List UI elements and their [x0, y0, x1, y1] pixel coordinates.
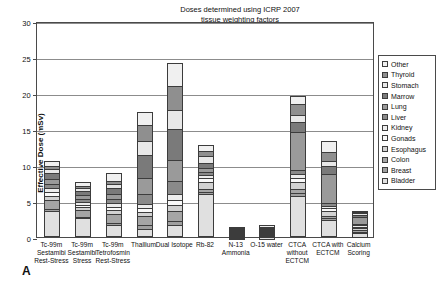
bar-segment	[137, 194, 153, 204]
bar-segment	[198, 194, 214, 236]
bar-segment	[75, 218, 91, 237]
bar-segment	[352, 233, 368, 237]
legend-swatch-icon	[382, 135, 388, 141]
bar-segment	[44, 211, 60, 237]
bar-segment	[229, 238, 245, 241]
legend-label: Lung	[391, 103, 407, 110]
legend-swatch-icon	[382, 82, 388, 88]
plot-area: Effective Dose (mSv) 051015202530	[36, 22, 374, 238]
legend-swatch-icon	[382, 146, 388, 152]
bar-segment	[106, 214, 122, 223]
legend-label: Stomach	[391, 82, 419, 89]
bar-segment	[290, 96, 306, 104]
legend-item[interactable]: Breast	[382, 165, 433, 176]
x-axis-labels: Tc-99mSestamibiRest-StressTc-99mSestamib…	[36, 241, 374, 285]
bar-segment	[167, 63, 183, 85]
figure-panel-a: Doses determined using ICRP 2007 tissue …	[0, 0, 440, 289]
bar-segment	[167, 181, 183, 195]
y-axis-tick-label: 10	[22, 163, 31, 172]
legend-item[interactable]: Colon	[382, 154, 433, 165]
legend-label: Bladder	[391, 177, 415, 184]
x-axis-label-line: Calcium	[336, 241, 381, 249]
legend-item[interactable]: Bladder	[382, 176, 433, 187]
bar-segment	[137, 125, 153, 140]
legend-item[interactable]: Other	[382, 59, 433, 70]
bar-segment	[44, 200, 60, 209]
legend-swatch-icon	[382, 93, 388, 99]
y-axis-tick-label: 15	[22, 127, 31, 136]
legend-item[interactable]: Lung	[382, 101, 433, 112]
legend-label: Marrow	[391, 93, 414, 100]
bar-segment	[137, 155, 153, 178]
legend: OtherThyroidStomachMarrowLungLiverKidney…	[378, 55, 436, 190]
stacked-bar	[75, 182, 91, 237]
legend-label: Gonads	[391, 135, 416, 142]
bar-segment	[290, 196, 306, 237]
bar-segment	[290, 182, 306, 190]
bar-segment	[321, 174, 337, 203]
bar-segment	[290, 132, 306, 170]
stacked-bar	[321, 141, 337, 237]
bar-segment	[321, 166, 337, 174]
bar-segment	[106, 225, 122, 237]
legend-item[interactable]: Marrow	[382, 91, 433, 102]
y-axis-tick-label: 5	[27, 199, 31, 208]
legend-swatch-icon	[382, 178, 388, 184]
bar-segment	[137, 112, 153, 125]
bar-segment	[167, 160, 183, 181]
x-axis-label-line: Rest-Stress	[90, 257, 135, 265]
bar-segment	[321, 152, 337, 161]
bar-segment	[321, 141, 337, 153]
bar-segment	[167, 110, 183, 129]
x-axis-label: CalciumScoring	[336, 241, 381, 257]
x-axis-label-line: Ammonia	[213, 249, 258, 257]
stacked-bar	[229, 227, 245, 237]
y-axis-tick-label: 20	[22, 91, 31, 100]
y-axis-tick-label: 30	[22, 19, 31, 28]
legend-label: Liver	[391, 114, 406, 121]
legend-item[interactable]: Gonads	[382, 133, 433, 144]
bar-segment	[259, 237, 275, 240]
stacked-bar	[352, 211, 368, 237]
legend-item[interactable]: Liver	[382, 112, 433, 123]
stacked-bar	[198, 145, 214, 237]
legend-label: Kidney	[391, 124, 412, 131]
bar-segment	[167, 225, 183, 237]
bar-segment	[321, 220, 337, 237]
legend-label: Colon	[391, 156, 409, 163]
stacked-bar	[259, 225, 275, 237]
bar-segment	[137, 229, 153, 237]
legend-label: Thyroid	[391, 71, 414, 78]
bar-segment	[137, 178, 153, 194]
stacked-bar	[44, 161, 60, 237]
legend-swatch-icon	[382, 167, 388, 173]
stacked-bar	[106, 173, 122, 237]
legend-item[interactable]: Stomach	[382, 80, 433, 91]
bar-segment	[137, 216, 153, 225]
legend-swatch-icon	[382, 72, 388, 78]
bar-segment	[106, 173, 122, 181]
x-axis-label-line: Tetrofosmin	[90, 249, 135, 257]
panel-letter: A	[22, 264, 31, 278]
y-axis-tick-label: 25	[22, 55, 31, 64]
bar-segment	[290, 122, 306, 132]
x-axis-label-line: Scoring	[336, 249, 381, 257]
bars-layer	[37, 23, 373, 237]
stacked-bar	[137, 112, 153, 237]
annotation-line-1: Doses determined using ICRP 2007	[150, 5, 330, 15]
legend-swatch-icon	[382, 114, 388, 120]
legend-item[interactable]: Kidney	[382, 123, 433, 134]
y-axis-tick	[33, 239, 37, 240]
stacked-bar	[167, 63, 183, 237]
legend-label: Breast	[391, 167, 411, 174]
legend-item[interactable]: Esophagus	[382, 144, 433, 155]
bar-segment	[290, 104, 306, 116]
legend-label: Esophagus	[391, 146, 426, 153]
bar-segment	[167, 211, 183, 221]
legend-item[interactable]: Thyroid	[382, 70, 433, 81]
legend-swatch-icon	[382, 104, 388, 110]
bar-segment	[167, 129, 183, 160]
x-axis-label-line: ECTCM	[275, 257, 320, 265]
legend-swatch-icon	[382, 61, 388, 67]
bar-segment	[137, 141, 153, 155]
